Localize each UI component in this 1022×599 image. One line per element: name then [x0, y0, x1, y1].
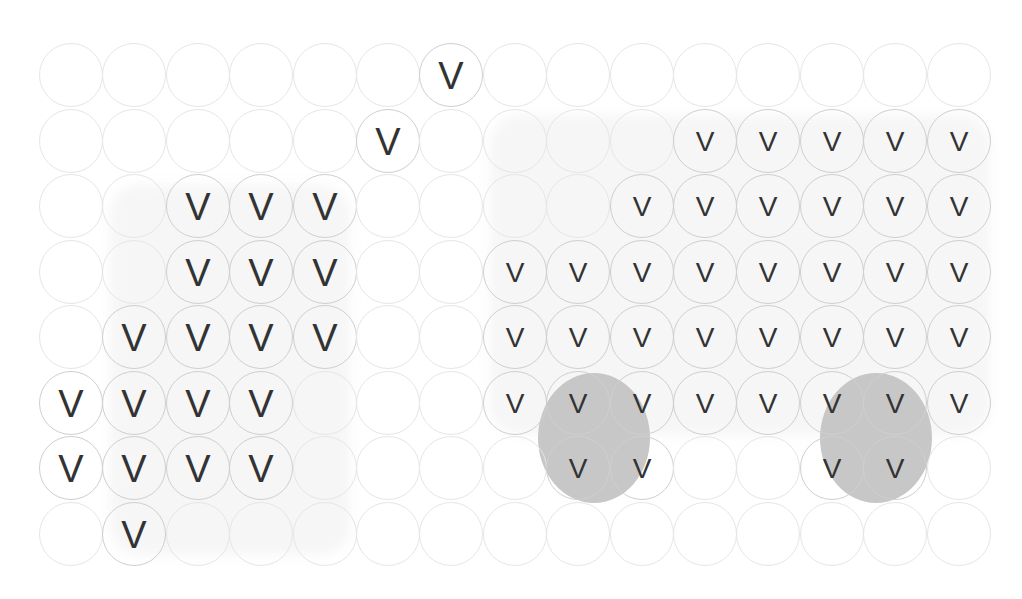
- grid-cell-r3-c4: V: [229, 174, 293, 238]
- v-mark-large: V: [58, 450, 83, 488]
- grid-cell-r7-c5: [293, 436, 357, 500]
- v-mark-large: V: [438, 57, 463, 95]
- grid-cell-r3-c12: V: [736, 174, 800, 238]
- grid-cell-r2-c2: [102, 109, 166, 173]
- grid-cell-r6-c5: [293, 371, 357, 435]
- v-mark-small: V: [823, 324, 842, 352]
- grid-cell-r7-c9: V: [546, 436, 610, 500]
- v-mark-large: V: [248, 254, 273, 292]
- grid-cell-r1-c6: [356, 43, 420, 107]
- grid-cell-r1-c11: [673, 43, 737, 107]
- grid-cell-r8-c4: [229, 502, 293, 566]
- grid-cell-r6-c14: V: [863, 371, 927, 435]
- grid-cell-r6-c6: [356, 371, 420, 435]
- grid-cell-r4-c15: V: [927, 240, 991, 304]
- v-mark-small: V: [823, 455, 842, 483]
- grid-cell-r1-c3: [166, 43, 230, 107]
- grid-cell-r7-c8: [483, 436, 547, 500]
- v-mark-large: V: [185, 188, 210, 226]
- grid-cell-r5-c8: V: [483, 305, 547, 369]
- grid-cell-r4-c14: V: [863, 240, 927, 304]
- grid-cell-r7-c2: V: [102, 436, 166, 500]
- circle-grid-diagram: VVVVVVVVVVVVVVVVVVVVVVVVVVVVVVVVVVVVVVVV…: [0, 0, 1022, 599]
- grid-cell-r5-c7: [419, 305, 483, 369]
- grid-cell-r6-c9: V: [546, 371, 610, 435]
- grid-cell-r2-c8: [483, 109, 547, 173]
- grid-cell-r6-c2: V: [102, 371, 166, 435]
- grid-cell-r8-c1: [39, 502, 103, 566]
- grid-cell-r3-c10: V: [610, 174, 674, 238]
- grid-cell-r8-c5: [293, 502, 357, 566]
- v-mark-large: V: [248, 385, 273, 423]
- grid-cell-r4-c10: V: [610, 240, 674, 304]
- left-cluster-shade: [110, 185, 350, 555]
- v-mark-large: V: [375, 123, 400, 161]
- grid-cell-r8-c12: [736, 502, 800, 566]
- v-mark-small: V: [886, 259, 905, 287]
- grid-cell-r7-c10: V: [610, 436, 674, 500]
- grid-cell-r2-c11: V: [673, 109, 737, 173]
- grid-cell-r3-c6: [356, 174, 420, 238]
- grid-cell-r7-c3: V: [166, 436, 230, 500]
- v-mark-small: V: [759, 193, 778, 221]
- grid-cell-r6-c7: [419, 371, 483, 435]
- v-mark-large: V: [121, 516, 146, 554]
- v-mark-large: V: [248, 188, 273, 226]
- v-mark-small: V: [759, 390, 778, 418]
- grid-cell-r2-c3: [166, 109, 230, 173]
- v-mark-small: V: [696, 128, 715, 156]
- v-mark-small: V: [569, 455, 588, 483]
- v-mark-large: V: [185, 319, 210, 357]
- grid-cell-r2-c5: [293, 109, 357, 173]
- grid-cell-r1-c7: V: [419, 43, 483, 107]
- v-mark-small: V: [696, 193, 715, 221]
- grid-cell-r8-c11: [673, 502, 737, 566]
- grid-cell-r1-c4: [229, 43, 293, 107]
- v-mark-large: V: [248, 319, 273, 357]
- grid-cell-r5-c14: V: [863, 305, 927, 369]
- grid-cell-r2-c6: V: [356, 109, 420, 173]
- grid-cell-r6-c10: V: [610, 371, 674, 435]
- grid-cell-r1-c12: [736, 43, 800, 107]
- grid-cell-r5-c10: V: [610, 305, 674, 369]
- grid-cell-r4-c6: [356, 240, 420, 304]
- grid-cell-r6-c12: V: [736, 371, 800, 435]
- v-mark-large: V: [121, 450, 146, 488]
- grid-cell-r8-c9: [546, 502, 610, 566]
- grid-cell-r1-c10: [610, 43, 674, 107]
- v-mark-small: V: [633, 390, 652, 418]
- v-mark-small: V: [886, 193, 905, 221]
- v-mark-small: V: [886, 128, 905, 156]
- v-mark-small: V: [886, 390, 905, 418]
- v-mark-large: V: [185, 254, 210, 292]
- grid-cell-r5-c15: V: [927, 305, 991, 369]
- grid-cell-r3-c1: [39, 174, 103, 238]
- v-mark-small: V: [633, 455, 652, 483]
- grid-cell-r4-c11: V: [673, 240, 737, 304]
- grid-cell-r5-c3: V: [166, 305, 230, 369]
- grid-cell-r2-c1: [39, 109, 103, 173]
- grid-cell-r2-c14: V: [863, 109, 927, 173]
- grid-cell-r5-c6: [356, 305, 420, 369]
- v-mark-small: V: [950, 259, 969, 287]
- v-mark-small: V: [759, 324, 778, 352]
- grid-cell-r5-c11: V: [673, 305, 737, 369]
- v-mark-small: V: [950, 128, 969, 156]
- grid-cell-r2-c9: [546, 109, 610, 173]
- grid-cell-r6-c13: V: [800, 371, 864, 435]
- grid-cell-r7-c12: [736, 436, 800, 500]
- v-mark-small: V: [759, 128, 778, 156]
- v-mark-large: V: [185, 385, 210, 423]
- grid-cell-r5-c9: V: [546, 305, 610, 369]
- grid-cell-r1-c9: [546, 43, 610, 107]
- v-mark-small: V: [950, 193, 969, 221]
- grid-cell-r1-c14: [863, 43, 927, 107]
- v-mark-large: V: [312, 254, 337, 292]
- v-mark-small: V: [506, 324, 525, 352]
- v-mark-small: V: [950, 390, 969, 418]
- grid-cell-r2-c15: V: [927, 109, 991, 173]
- grid-cell-r1-c1: [39, 43, 103, 107]
- grid-cell-r1-c13: [800, 43, 864, 107]
- v-mark-small: V: [696, 390, 715, 418]
- grid-cell-r6-c3: V: [166, 371, 230, 435]
